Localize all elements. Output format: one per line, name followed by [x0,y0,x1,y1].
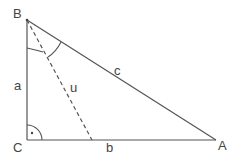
angle-arc-b-outer [48,42,61,57]
segment-u [27,20,92,140]
side-label-a: a [14,78,22,93]
vertex-label-a: A [218,138,227,153]
triangle-diagram: B C A a b c u [0,0,237,159]
right-angle-dot [31,132,33,134]
vertex-label-b: B [13,6,22,21]
angle-arc-b-inner [27,48,43,52]
right-angle-arc [27,125,42,140]
side-label-b: b [106,140,113,155]
side-label-c: c [114,63,121,78]
vertex-label-c: C [13,140,22,155]
vertex-b-dot [26,19,29,22]
side-c [27,20,216,140]
segment-label-u: u [70,80,77,95]
